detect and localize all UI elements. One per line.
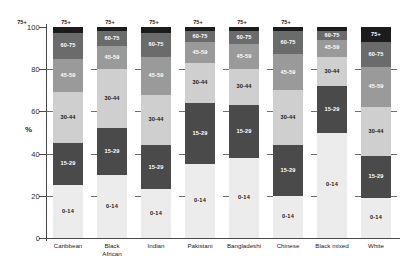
bar-segment-45-59[interactable]: 45-59: [361, 67, 391, 107]
bar-segment-label: 15-29: [236, 129, 251, 135]
bar-segment-label: 60-75: [104, 36, 119, 42]
y-axis-label: 40: [8, 150, 40, 159]
gridline-stub: [391, 69, 397, 70]
bar-segment-0-14[interactable]: 0-14: [97, 175, 127, 238]
bar-segment-label-outside: 75+: [175, 20, 221, 26]
bar-segment-75+[interactable]: 75+: [361, 27, 391, 42]
bar-segment-label: 45-59: [104, 55, 119, 61]
bar-segment-label: 60-75: [148, 42, 163, 48]
gridline-stub: [391, 154, 397, 155]
bar-segment-label-outside: 75+: [0, 20, 45, 26]
bar-segment-label: 30-44: [368, 129, 383, 135]
bar-segment-30-44[interactable]: 30-44: [361, 107, 391, 156]
bar-segment-30-44[interactable]: 30-44: [273, 90, 303, 145]
bar-segment-45-59[interactable]: 45-59: [229, 44, 259, 69]
bar-segment-30-44[interactable]: 30-44: [229, 69, 259, 105]
bar-segment-0-14[interactable]: 0-14: [141, 189, 171, 238]
bar-segment-0-14[interactable]: 0-14: [53, 185, 83, 238]
bar-segment-label-outside: 75+: [43, 20, 89, 26]
bar-segment-75+[interactable]: [141, 27, 171, 33]
bar-segment-15-29[interactable]: 15-29: [185, 103, 215, 164]
y-axis-tick: [39, 196, 46, 197]
y-axis-tick: [39, 154, 46, 155]
plot-area: 0-1415-2930-4445-5960-750-1415-2930-4445…: [46, 27, 398, 238]
bar-segment-15-29[interactable]: 15-29: [229, 105, 259, 158]
bar-segment-label: 45-59: [236, 54, 251, 60]
bar-segment-30-44[interactable]: 30-44: [97, 69, 127, 128]
bar-indian[interactable]: 0-1415-2930-4445-5960-75: [141, 27, 171, 238]
bar-segment-label: 15-29: [104, 149, 119, 155]
bar-segment-label: 45-59: [148, 73, 163, 79]
bar-segment-label: 60-75: [324, 33, 339, 39]
bar-black-african[interactable]: 0-1415-2930-4445-5960-75: [97, 27, 127, 238]
bar-segment-60-75[interactable]: 60-75: [361, 42, 391, 67]
bar-segment-label: 45-59: [60, 73, 75, 79]
bar-segment-0-14[interactable]: 0-14: [317, 133, 347, 239]
bar-segment-60-75[interactable]: 60-75: [97, 31, 127, 46]
bar-segment-15-29[interactable]: 15-29: [53, 143, 83, 185]
bar-segment-label: 30-44: [104, 96, 119, 102]
bar-segment-0-14[interactable]: 0-14: [229, 158, 259, 238]
bar-segment-label: 0-14: [238, 195, 250, 201]
bar-black-mixed[interactable]: 0-1415-2930-4445-5960-75: [317, 27, 347, 238]
bar-segment-label: 15-29: [280, 168, 295, 174]
bar-segment-60-75[interactable]: 60-75: [53, 33, 83, 58]
bar-segment-label: 0-14: [106, 204, 118, 210]
bar-segment-label: 0-14: [150, 211, 162, 217]
bar-segment-0-14[interactable]: 0-14: [273, 196, 303, 238]
bar-segment-15-29[interactable]: 15-29: [317, 86, 347, 132]
x-axis-line: [44, 238, 400, 239]
y-axis-tick: [39, 27, 46, 28]
stacked-bar-chart: % 0-1415-2930-4445-5960-750-1415-2930-44…: [0, 0, 412, 275]
bar-segment-60-75[interactable]: 60-75: [185, 31, 215, 42]
bar-segment-30-44[interactable]: 30-44: [141, 95, 171, 146]
bar-segment-60-75[interactable]: 60-75: [141, 33, 171, 56]
y-axis-label: 0: [8, 234, 40, 243]
bar-segment-60-75[interactable]: 60-75: [229, 31, 259, 44]
bar-segment-45-59[interactable]: 45-59: [97, 46, 127, 69]
bar-segment-30-44[interactable]: 30-44: [185, 63, 215, 103]
bar-segment-label: 15-29: [192, 131, 207, 137]
bar-segment-60-75[interactable]: 60-75: [317, 31, 347, 39]
bar-segment-0-14[interactable]: 0-14: [185, 164, 215, 238]
bar-segment-15-29[interactable]: 15-29: [361, 156, 391, 198]
bar-segment-45-59[interactable]: 45-59: [273, 54, 303, 90]
bar-segment-75+[interactable]: [317, 27, 347, 31]
bar-segment-label: 0-14: [194, 198, 206, 204]
bar-segment-label: 30-44: [192, 80, 207, 86]
bar-segment-75+[interactable]: [53, 27, 83, 33]
bar-segment-60-75[interactable]: 60-75: [273, 31, 303, 54]
y-axis-tick: [39, 69, 46, 70]
bar-segment-15-29[interactable]: 15-29: [97, 128, 127, 174]
bar-segment-75+[interactable]: [97, 27, 127, 31]
bar-pakistani[interactable]: 0-1415-2930-4445-5960-75: [185, 27, 215, 238]
bar-segment-45-59[interactable]: 45-59: [141, 57, 171, 95]
bar-segment-label-outside: 75+: [263, 20, 309, 26]
bar-chinese[interactable]: 0-1415-2930-4445-5960-75: [273, 27, 303, 238]
bar-segment-75+[interactable]: [273, 27, 303, 31]
y-axis-label: 20: [8, 192, 40, 201]
bar-segment-15-29[interactable]: 15-29: [141, 145, 171, 189]
bar-white[interactable]: 0-1415-2930-4445-5960-7575+: [361, 27, 391, 238]
bar-segment-30-44[interactable]: 30-44: [53, 92, 83, 143]
bar-segment-label: 45-59: [192, 50, 207, 56]
bar-bangladeshi[interactable]: 0-1415-2930-4445-5960-75: [229, 27, 259, 238]
bar-segment-30-44[interactable]: 30-44: [317, 57, 347, 87]
bar-segment-label: 0-14: [326, 182, 338, 188]
bar-segment-label: 45-59: [280, 70, 295, 76]
bar-segment-0-14[interactable]: 0-14: [361, 198, 391, 238]
bar-segment-label: 15-29: [368, 174, 383, 180]
bar-segment-label-outside: 75+: [219, 20, 265, 26]
bar-segment-75+[interactable]: [185, 27, 215, 31]
bar-segment-45-59[interactable]: 45-59: [185, 42, 215, 63]
bar-segment-75+[interactable]: [229, 27, 259, 31]
bar-segment-label: 60-75: [60, 43, 75, 49]
bar-segment-label: 60-75: [236, 35, 251, 41]
bar-caribbean[interactable]: 0-1415-2930-4445-5960-75: [53, 27, 83, 238]
bar-segment-label: 30-44: [280, 115, 295, 121]
gridline-stub: [391, 196, 397, 197]
bar-segment-label: 30-44: [324, 69, 339, 75]
bar-segment-45-59[interactable]: 45-59: [317, 40, 347, 57]
bar-segment-15-29[interactable]: 15-29: [273, 145, 303, 196]
bar-segment-45-59[interactable]: 45-59: [53, 59, 83, 93]
